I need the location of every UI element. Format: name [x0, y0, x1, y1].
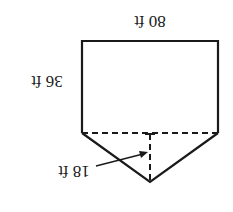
height-label: 36 ft [31, 72, 63, 91]
arrowhead-icon [139, 151, 148, 158]
triangle-height-label: 18 ft [58, 162, 90, 181]
pointer-arrow [96, 154, 143, 166]
pentagon-diagram: 80 ft 36 ft 18 ft [0, 0, 233, 212]
rectangle-outline [82, 41, 218, 133]
width-label: 80 ft [134, 12, 166, 31]
